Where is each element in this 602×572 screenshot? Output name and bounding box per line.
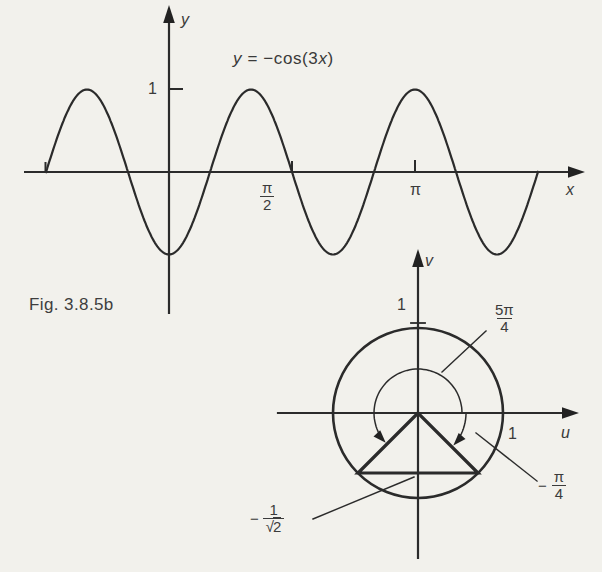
v-tick-label-1: 1	[392, 297, 406, 313]
y-tick-label-1: 1	[144, 81, 157, 97]
pointer-line-5pi4	[442, 331, 486, 372]
y-axis-label: y	[181, 12, 189, 28]
u-axis-label: u	[561, 425, 570, 441]
pointer-line-neg-pi4	[476, 433, 537, 481]
x-axis-label: x	[566, 182, 574, 198]
minus-sign: −	[538, 478, 547, 493]
v-axis-arrowhead-icon	[412, 249, 424, 267]
ordinate-label-neg-1-over-sqrt2: − 1 √2	[250, 502, 284, 535]
figure-canvas	[0, 0, 602, 572]
angle-arc-cw-arrowhead-icon	[453, 433, 465, 446]
equation-label: y = −cos(3x)	[233, 50, 334, 67]
v-axis-label: v	[425, 253, 433, 269]
pointer-line-ordinate	[313, 477, 414, 519]
angle-label-neg-pi-over-4: − π 4	[538, 469, 567, 502]
figure-caption: Fig. 3.8.5b	[29, 296, 114, 313]
x-tick-label-pi: π	[410, 182, 421, 198]
y-axis-arrowhead-icon	[163, 5, 175, 23]
u-axis-arrowhead-icon	[562, 407, 579, 419]
x-axis-arrowhead-icon	[568, 166, 585, 178]
minus-sign: −	[250, 511, 259, 526]
u-tick-label-1: 1	[508, 426, 517, 442]
scanned-textbook-figure: y = −cos(3x) y x 1 π 2 π Fig. 3.8.5b v u…	[0, 0, 602, 572]
angle-arc-ccw-arrowhead-icon	[374, 430, 386, 443]
x-tick-label-pi-half: π 2	[259, 180, 275, 213]
angle-label-5pi-over-4: 5π 4	[492, 302, 517, 335]
